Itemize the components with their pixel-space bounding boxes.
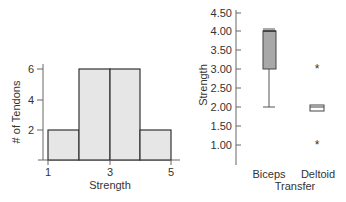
hist-bar [140,130,171,160]
hist-bar [48,130,79,160]
box-ytick: 4.50 [211,7,232,19]
hist-ytick: 2 [28,124,34,136]
box-cat: Deltoid [301,168,335,180]
hist-ylabel: # of Tendons [10,80,22,143]
box-ylabel: Strength [197,64,209,106]
biceps-box [263,31,276,69]
hist-ytick: 6 [28,63,34,75]
box-ytick: 4.00 [211,25,232,37]
box-xlabel: Transfer [275,180,316,192]
deltoid-box [310,105,324,111]
hist-bar [79,69,110,160]
boxplot: 4.50 4.00 3.50 3.00 2.50 2.00 1.50 1.00 … [197,7,335,192]
hist-ytick: 4 [28,94,34,106]
deltoid-outlier: * [315,62,320,76]
hist-xtick: 3 [107,166,113,178]
box-ytick: 1.50 [211,120,232,132]
deltoid-outlier: * [315,138,320,152]
hist-xlabel: Strength [89,179,131,191]
box-ytick: 3.00 [211,63,232,75]
hist-bar [110,69,140,160]
box-ytick: 2.00 [211,101,232,113]
box-ytick: 3.50 [211,44,232,56]
hist-xtick: 1 [45,166,51,178]
hist-xtick: 5 [168,166,174,178]
chart-canvas: 6 4 2 1 3 5 Strength # of Tendons 4.5 [0,0,346,202]
box-ytick: 1.00 [211,139,232,151]
box-ytick: 2.50 [211,82,232,94]
box-cat: Biceps [252,168,286,180]
histogram: 6 4 2 1 3 5 Strength # of Tendons [10,63,180,191]
